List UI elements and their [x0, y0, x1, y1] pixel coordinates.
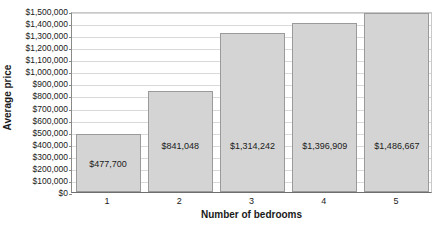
bar-value-label: $1,314,242 — [221, 141, 284, 151]
bar[interactable]: $477,700 — [76, 134, 141, 192]
x-axis-tick-label: 2 — [143, 196, 215, 207]
y-axis-tick-labels: $1,500,000$1,400,000$1,300,000$1,200,000… — [14, 12, 68, 193]
y-axis-tick-mark — [69, 61, 72, 62]
x-axis-tick-label: 3 — [215, 196, 287, 207]
y-axis-tick-mark — [69, 146, 72, 147]
y-axis-tick-mark — [69, 73, 72, 74]
y-axis-tick-mark — [69, 170, 72, 171]
y-axis-tick-mark — [69, 97, 72, 98]
bar-value-label: $1,486,667 — [365, 141, 428, 151]
y-axis-tick-mark — [69, 182, 72, 183]
y-axis-tick-label: $1,400,000 — [14, 20, 68, 29]
bar[interactable]: $841,048 — [148, 91, 213, 192]
y-axis-tick-mark — [69, 110, 72, 111]
y-axis-tick-mark — [69, 194, 72, 195]
y-axis-tick-label: $500,000 — [14, 128, 68, 137]
y-axis-tick-mark — [69, 13, 72, 14]
y-axis-tick-mark — [69, 158, 72, 159]
x-axis-tick-label: 1 — [71, 196, 143, 207]
y-axis-tick-mark — [69, 122, 72, 123]
y-axis-tick-label: $1,000,000 — [14, 68, 68, 77]
y-axis-tick-mark — [69, 37, 72, 38]
y-axis-tick-label: $1,300,000 — [14, 32, 68, 41]
y-axis-tick-label: $900,000 — [14, 80, 68, 89]
bar[interactable]: $1,486,667 — [364, 13, 429, 192]
x-axis-tick-labels: 12345 — [71, 196, 432, 209]
x-axis-title: Number of bedrooms — [71, 209, 432, 220]
y-axis-tick-label: $200,000 — [14, 164, 68, 173]
plot-area: $477,700$841,048$1,314,242$1,396,909$1,4… — [71, 12, 432, 193]
y-axis-tick-label: $1,100,000 — [14, 56, 68, 65]
y-axis-tick-label: $100,000 — [14, 176, 68, 185]
x-axis-tick-label: 5 — [360, 196, 432, 207]
y-axis-tick-mark — [69, 25, 72, 26]
y-axis-tick-label: $300,000 — [14, 152, 68, 161]
y-axis-tick-label: $1,200,000 — [14, 44, 68, 53]
y-axis-tick-label: $700,000 — [14, 104, 68, 113]
y-axis-title-text: Average price — [3, 65, 14, 131]
x-axis-tick-label: 4 — [288, 196, 360, 207]
bar[interactable]: $1,314,242 — [220, 33, 285, 192]
bar-value-label: $841,048 — [149, 141, 212, 151]
y-axis-tick-label: $400,000 — [14, 140, 68, 149]
bar-chart: Average price $1,500,000$1,400,000$1,300… — [0, 0, 437, 225]
y-axis-tick-label: $800,000 — [14, 92, 68, 101]
y-axis-tick-label: $600,000 — [14, 116, 68, 125]
bar[interactable]: $1,396,909 — [292, 23, 357, 192]
y-axis-tick-label: $0 — [14, 189, 68, 198]
y-axis-tick-mark — [69, 49, 72, 50]
y-axis-tick-label: $1,500,000 — [14, 8, 68, 17]
y-axis-tick-mark — [69, 85, 72, 86]
bar-value-label: $1,396,909 — [293, 141, 356, 151]
y-axis-tick-mark — [69, 134, 72, 135]
bar-value-label: $477,700 — [77, 159, 140, 169]
